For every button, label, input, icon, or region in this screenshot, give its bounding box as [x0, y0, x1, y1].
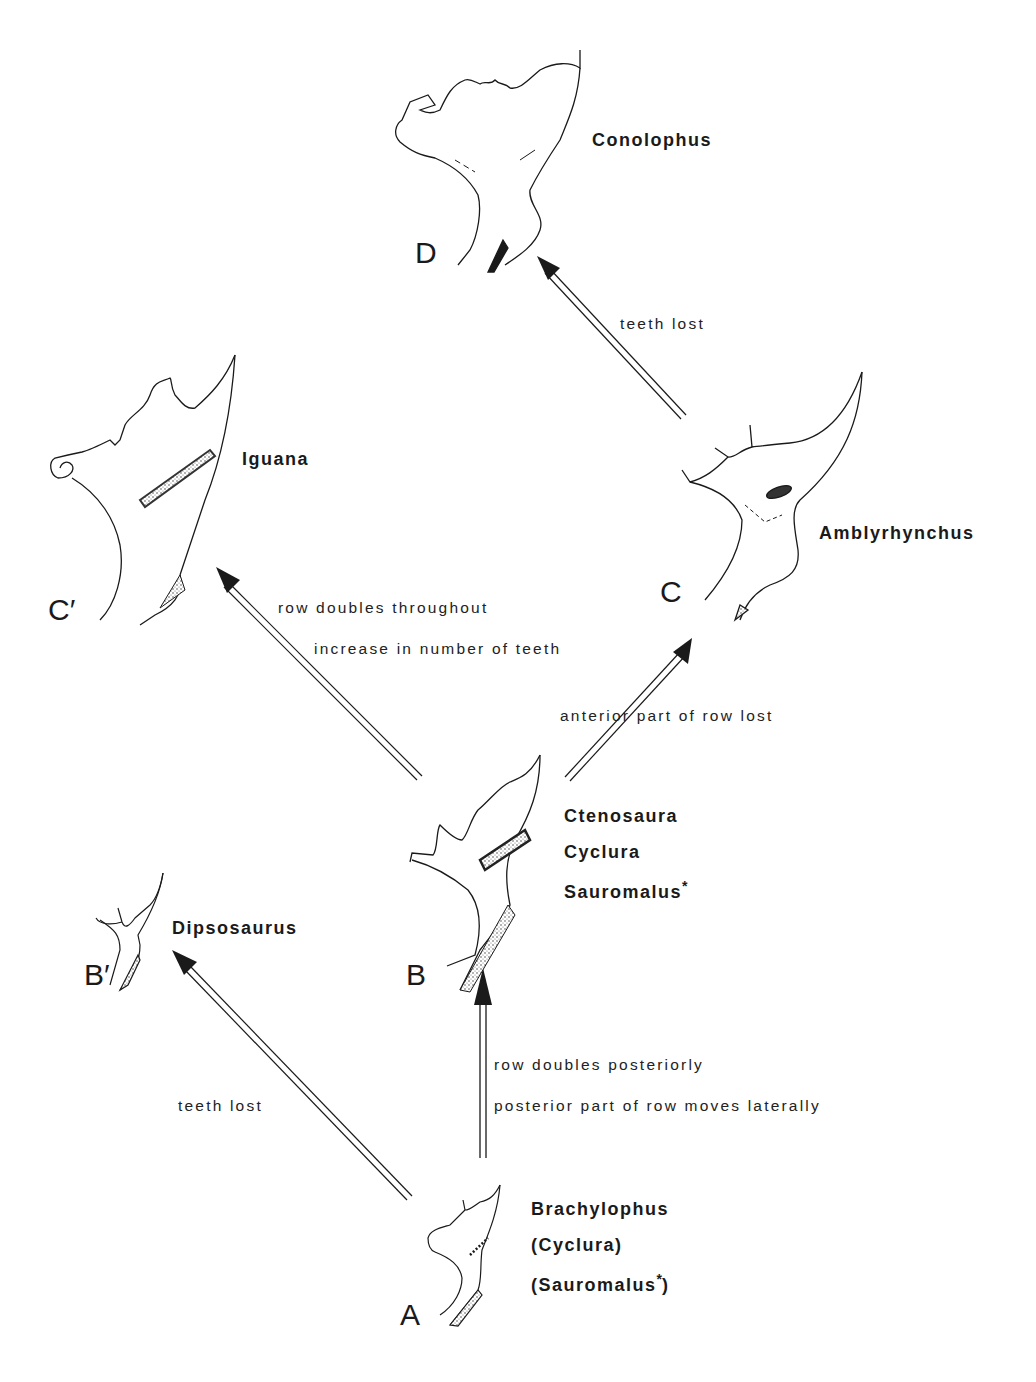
note-a-to-b-2: posterior part of row moves laterally — [494, 1098, 821, 1114]
diagram-canvas — [0, 0, 1036, 1382]
asterisk-mark: * — [682, 878, 687, 894]
stage-label-b: B — [406, 960, 426, 990]
genus-label-sauromalus-parenthetical: (Sauromalus*) — [531, 1272, 669, 1294]
stage-label-c-prime: C′ — [48, 595, 75, 625]
note-a-to-b-prime: teeth lost — [178, 1098, 263, 1114]
note-b-to-c-prime-1: row doubles throughout — [278, 600, 488, 616]
note-c-to-d: teeth lost — [620, 316, 705, 332]
genus-label-amblyrhynchus: Amblyrhynchus — [819, 524, 975, 542]
note-b-to-c: anterior part of row lost — [560, 708, 774, 724]
stage-label-a: A — [400, 1300, 420, 1330]
arrow-c-to-d — [537, 256, 686, 419]
note-b-to-c-prime-2: increase in number of teeth — [314, 641, 561, 657]
jaw-drawing-b-ctenosaura — [410, 755, 540, 992]
genus-label-cyclura: Cyclura — [564, 843, 688, 861]
genus-label-iguana: Iguana — [242, 450, 309, 468]
jaw-drawing-c-amblyrhynchus — [682, 372, 862, 620]
stage-label-c: C — [660, 577, 682, 607]
arrow-a-to-b — [474, 968, 492, 1158]
genus-label-dipsosaurus: Dipsosaurus — [172, 919, 298, 937]
genus-label-cyclura-parenthetical: (Cyclura) — [531, 1236, 669, 1254]
genus-list-b: Ctenosaura Cyclura Sauromalus* — [564, 807, 688, 919]
genus-list-a: Brachylophus (Cyclura) (Sauromalus*) — [531, 1200, 669, 1312]
note-a-to-b-1: row doubles posteriorly — [494, 1057, 704, 1073]
genus-label-conolophus: Conolophus — [592, 131, 712, 149]
arrow-a-to-b-prime — [172, 950, 412, 1200]
stage-label-d: D — [415, 238, 437, 268]
stage-label-b-prime: B′ — [84, 960, 110, 990]
genus-label-ctenosaura: Ctenosaura — [564, 807, 688, 825]
jaw-drawing-a-brachylophus — [428, 1185, 500, 1326]
genus-label-brachylophus: Brachylophus — [531, 1200, 669, 1218]
genus-label-sauromalus: Sauromalus* — [564, 879, 688, 901]
jaw-drawing-c-prime-iguana — [51, 355, 235, 625]
